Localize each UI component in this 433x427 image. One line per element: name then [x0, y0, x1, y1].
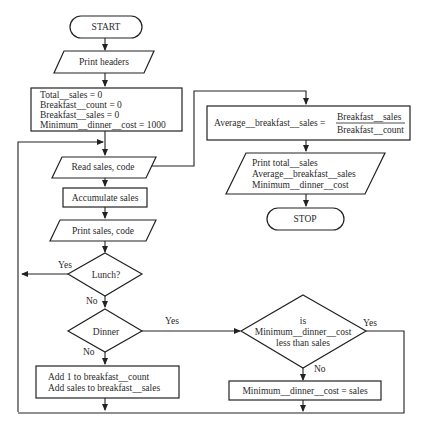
svg-text:Add sales to breakfast__sales: Add sales to breakfast__sales: [48, 383, 160, 393]
svg-text:Read sales, code: Read sales, code: [71, 162, 134, 172]
lunch-decision: Lunch? Yes No: [58, 253, 142, 306]
svg-text:No: No: [83, 347, 95, 357]
average-process: Average__breakfast__sales = Breakfast__s…: [207, 106, 410, 140]
svg-text:Average__breakfast__sales =: Average__breakfast__sales =: [214, 118, 325, 128]
svg-text:Yes: Yes: [165, 316, 179, 326]
min-assign-process: Minimum__dinner__cost = sales: [229, 381, 381, 400]
svg-text:Yes: Yes: [363, 318, 377, 328]
svg-text:Total__sales = 0: Total__sales = 0: [40, 90, 102, 100]
stop-terminal: STOP: [267, 208, 344, 230]
svg-text:Yes: Yes: [58, 260, 72, 270]
read-sales-io: Read sales, code: [52, 157, 156, 178]
svg-text:Print sales, code: Print sales, code: [72, 226, 134, 236]
svg-text:No: No: [86, 296, 98, 306]
svg-text:is: is: [300, 316, 307, 326]
svg-text:Breakfast__sales = 0: Breakfast__sales = 0: [40, 110, 119, 120]
svg-text:START: START: [92, 22, 121, 32]
svg-text:STOP: STOP: [293, 214, 316, 224]
svg-text:Print headers: Print headers: [79, 57, 129, 67]
svg-text:Dinner: Dinner: [93, 327, 120, 337]
flowchart-canvas: START Print headers Total__sales = 0 Bre…: [0, 0, 433, 427]
svg-text:Accumulate sales: Accumulate sales: [72, 193, 139, 203]
print-headers-io: Print headers: [54, 51, 154, 73]
svg-text:Print total__sales: Print total__sales: [252, 158, 318, 168]
min-cost-decision: is Minimum__dinner__cost less than sales…: [241, 295, 377, 374]
svg-text:Minimum__dinner__cost: Minimum__dinner__cost: [252, 180, 349, 190]
svg-text:No: No: [314, 364, 326, 374]
svg-text:Minimum__dinner__cost = sales: Minimum__dinner__cost = sales: [242, 386, 367, 396]
add-breakfast-process: Add 1 to breakfast__count Add sales to b…: [36, 366, 179, 398]
dinner-decision: Dinner Yes No: [68, 309, 179, 357]
svg-text:Breakfast__count: Breakfast__count: [337, 125, 404, 135]
svg-text:Add 1 to breakfast__count: Add 1 to breakfast__count: [48, 372, 149, 382]
svg-text:Breakfast__count = 0: Breakfast__count = 0: [40, 100, 122, 110]
svg-text:Minimum__dinner__cost: Minimum__dinner__cost: [255, 327, 352, 337]
svg-text:Minimum__dinner__cost = 1000: Minimum__dinner__cost = 1000: [40, 120, 166, 130]
print-sales-io: Print sales, code: [50, 220, 156, 241]
svg-text:less than sales: less than sales: [276, 338, 330, 348]
print-results-io: Print total__sales Average__breakfast__s…: [226, 153, 385, 194]
svg-text:Lunch?: Lunch?: [92, 270, 121, 280]
svg-text:Average__breakfast__sales: Average__breakfast__sales: [252, 169, 356, 179]
init-process: Total__sales = 0 Breakfast__count = 0 Br…: [31, 88, 182, 131]
accumulate-process: Accumulate sales: [63, 188, 147, 207]
start-terminal: START: [70, 16, 142, 38]
svg-text:Breakfast__sales: Breakfast__sales: [337, 112, 402, 122]
